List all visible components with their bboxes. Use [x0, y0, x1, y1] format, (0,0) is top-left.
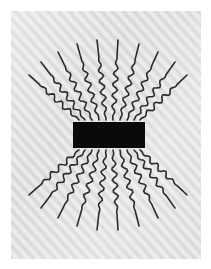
figure-root [0, 0, 211, 269]
wavy-ray-lower-4 [97, 150, 106, 230]
wavy-ray-lower-6 [120, 150, 139, 226]
wavy-ray-upper-4 [97, 40, 106, 120]
wavy-ray-lower-5 [112, 150, 118, 230]
black-emitter-bar [73, 122, 145, 148]
wavy-ray-upper-6 [120, 44, 139, 120]
wavy-ray-upper-3 [77, 44, 99, 120]
wavy-ray-upper-5 [112, 40, 118, 120]
